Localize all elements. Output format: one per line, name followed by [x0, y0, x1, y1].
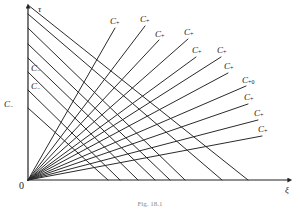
characteristics-plot: [0, 0, 300, 211]
characteristic-label-subscript: −: [10, 103, 13, 109]
origin-label: 0: [19, 181, 24, 191]
characteristic-label: C+: [155, 30, 164, 39]
characteristic-line: [28, 104, 248, 180]
characteristic-label: C+: [254, 109, 263, 118]
characteristic-label-subscript: +: [264, 128, 267, 134]
characteristic-line: [28, 58, 155, 180]
characteristic-line: [28, 28, 185, 180]
characteristic-label-subscript: +: [116, 20, 119, 26]
characteristic-line: [28, 72, 138, 180]
characteristic-label: C+0: [242, 76, 254, 85]
characteristic-label-subscript: −: [37, 67, 40, 73]
characteristic-label: C−: [31, 64, 40, 73]
figure-caption: Fig. 18.1: [0, 201, 300, 211]
characteristic-label-subscript: +: [146, 18, 149, 24]
characteristic-label: C+: [184, 28, 193, 37]
characteristic-label-subscript: −: [37, 85, 40, 91]
characteristic-label: C+: [110, 17, 119, 26]
characteristic-label-subscript: +: [260, 112, 263, 118]
characteristic-label-subscript: +0: [248, 79, 254, 85]
characteristic-label-subscript: +: [198, 49, 201, 55]
characteristic-label: C−: [31, 82, 40, 91]
characteristic-label-subscript: +: [190, 31, 193, 37]
characteristic-label-subscript: +: [250, 96, 253, 102]
characteristic-label-subscript: +: [230, 65, 233, 71]
characteristic-curves: [28, 5, 262, 180]
characteristic-label: C+: [258, 125, 267, 134]
characteristic-line: [28, 73, 228, 180]
characteristic-label-subscript: +: [161, 33, 164, 39]
characteristic-line: [28, 5, 248, 180]
characteristic-label: C+: [217, 46, 226, 55]
characteristic-label-subscript: +: [223, 49, 226, 55]
characteristic-label: C−: [4, 100, 13, 109]
characteristic-label: C+: [140, 15, 149, 24]
characteristics-figure: τ ξ 0 C+C+C+C+C+C+C+C+0C+C+C+C−C−C− Fig.…: [0, 0, 300, 211]
characteristic-line: [28, 26, 145, 180]
characteristic-label: C+: [244, 93, 253, 102]
tau-axis-label: τ: [38, 5, 41, 14]
xi-axis-label: ξ: [285, 186, 289, 195]
characteristic-label: C+: [192, 46, 201, 55]
characteristic-label: C+: [224, 62, 233, 71]
